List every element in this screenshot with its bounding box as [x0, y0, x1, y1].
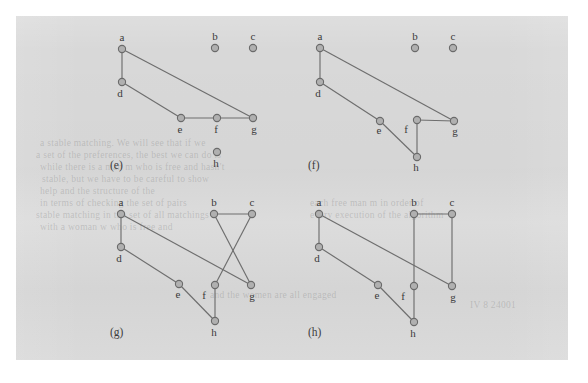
graph-node-label-c: c [250, 196, 255, 208]
graph-node-d [316, 78, 323, 85]
panel-label-f: (f) [308, 159, 320, 171]
edge-group [122, 49, 253, 118]
node-group: abcdefgh [315, 30, 458, 173]
graph-node-label-b: b [212, 30, 218, 42]
graph-node-g [249, 114, 256, 121]
graph-node-label-a: a [317, 196, 322, 208]
edge-group [319, 214, 452, 322]
graph-node-b [210, 210, 217, 217]
graph-node-label-c: c [450, 196, 455, 208]
graph-node-label-c: c [451, 30, 456, 42]
graph-node-label-h: h [410, 327, 416, 339]
graph-node-label-g: g [249, 290, 255, 302]
graph-node-d [315, 243, 322, 250]
graph-edge-a-g [320, 48, 454, 121]
graph-edge-a-g [121, 214, 251, 285]
graph-node-c [249, 44, 256, 51]
graph-node-label-b: b [411, 196, 417, 208]
panel-label-h: (h) [308, 326, 321, 338]
graph-node-label-a: a [119, 196, 124, 208]
graph-edge-e-h [179, 284, 215, 321]
graph-panel-e: abcdefgh [117, 30, 257, 169]
graph-edge-a-g [122, 49, 253, 118]
graph-node-e [175, 280, 182, 287]
graph-node-label-g: g [452, 125, 458, 137]
graph-node-label-b: b [412, 30, 418, 42]
graph-node-label-c: c [251, 30, 256, 42]
edge-group [121, 214, 252, 321]
graph-node-h [213, 148, 220, 155]
graph-node-e [177, 114, 184, 121]
graph-node-d [118, 78, 125, 85]
graph-node-f [211, 281, 218, 288]
graph-node-label-b: b [211, 196, 217, 208]
graph-node-label-f: f [202, 289, 206, 301]
graph-node-label-d: d [116, 252, 122, 264]
graph-node-label-d: d [117, 87, 123, 99]
graph-node-g [247, 281, 254, 288]
graph-node-b [410, 210, 417, 217]
graph-node-label-e: e [176, 288, 181, 300]
graph-node-g [448, 282, 455, 289]
graph-edge-e-h [380, 121, 417, 157]
graph-node-label-g: g [450, 291, 456, 303]
graph-node-label-g: g [251, 123, 257, 135]
graph-node-a [315, 210, 322, 217]
graph-node-c [449, 44, 456, 51]
graph-node-h [211, 317, 218, 324]
graph-node-label-f: f [401, 290, 405, 302]
graph-node-label-f: f [404, 123, 408, 135]
graph-edge-d-e [320, 82, 380, 121]
graph-node-label-h: h [211, 326, 217, 338]
graph-edge-d-e [319, 247, 378, 285]
edge-group [320, 48, 454, 157]
graph-node-h [413, 153, 420, 160]
graph-node-label-a: a [318, 30, 323, 42]
panel-label-e: (e) [110, 159, 123, 171]
graph-node-b [411, 44, 418, 51]
graph-node-label-e: e [375, 289, 380, 301]
graph-node-c [248, 210, 255, 217]
graph-node-f [410, 282, 417, 289]
graph-edge-d-e [121, 247, 179, 284]
graph-node-b [211, 44, 218, 51]
graph-panel-f: abcdefgh [315, 30, 458, 173]
graph-edge-e-h [378, 285, 414, 322]
node-group: abcdefgh [116, 196, 255, 338]
graph-node-label-h: h [213, 157, 219, 169]
graph-edge-d-e [122, 82, 181, 118]
graph-edge-c-f [215, 214, 252, 285]
graph-node-g [450, 117, 457, 124]
graph-node-a [118, 45, 125, 52]
node-group: abcdefgh [117, 30, 257, 169]
graph-node-d [117, 243, 124, 250]
panel-label-g: (g) [110, 326, 123, 338]
graph-node-c [448, 210, 455, 217]
graph-node-label-d: d [315, 87, 321, 99]
graph-node-label-d: d [314, 252, 320, 264]
graph-node-label-f: f [214, 123, 218, 135]
graph-edge-a-g [319, 214, 452, 286]
graph-node-label-h: h [413, 161, 419, 173]
graph-node-e [374, 281, 381, 288]
graph-diagram-layer: abcdefghabcdefghabcdefghabcdefgh [0, 0, 588, 383]
graph-node-label-e: e [377, 124, 382, 136]
graph-node-label-e: e [178, 123, 183, 135]
node-group: abcdefgh [314, 196, 456, 339]
graph-edge-f-g [417, 120, 454, 121]
figure-page: a stable matching. We will see that if w… [0, 0, 588, 383]
graph-node-a [316, 44, 323, 51]
graph-node-h [410, 318, 417, 325]
graph-node-a [117, 210, 124, 217]
graph-node-label-a: a [120, 31, 125, 43]
graph-panel-g: abcdefgh [116, 196, 255, 338]
graph-node-f [213, 114, 220, 121]
graph-panel-h: abcdefgh [314, 196, 456, 339]
graph-node-f [413, 116, 420, 123]
